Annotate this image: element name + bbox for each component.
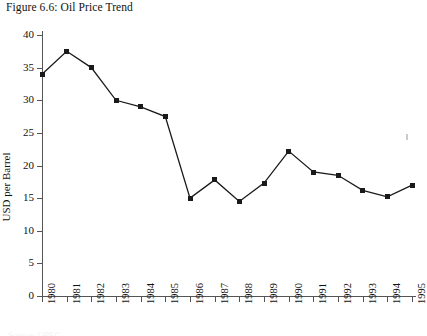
scan-artifact-speck (406, 134, 408, 140)
data-point-marker (89, 65, 94, 70)
data-point-marker (237, 199, 242, 204)
data-point-marker (138, 104, 143, 109)
data-point-marker (188, 196, 193, 201)
data-point-marker (64, 49, 69, 54)
data-point-marker (410, 183, 415, 188)
source-note-clipped: Source: OPEC (8, 330, 61, 336)
data-point-marker (114, 98, 119, 103)
line-chart: USD per Barrel 0510152025303540 19801981… (0, 26, 427, 326)
data-point-marker (212, 177, 217, 182)
data-point-marker (311, 170, 316, 175)
data-point-marker (385, 194, 390, 199)
figure-caption: Figure 6.6: Oil Price Trend (6, 1, 133, 13)
data-point-marker (163, 114, 168, 119)
data-point-marker (40, 72, 45, 77)
data-point-marker (360, 188, 365, 193)
data-point-marker (336, 173, 341, 178)
data-point-marker (262, 181, 267, 186)
data-line-series (0, 26, 427, 326)
data-point-marker (286, 149, 291, 154)
